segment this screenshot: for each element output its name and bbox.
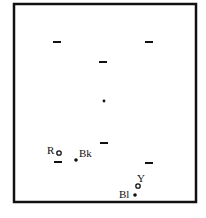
diagram-frame (14, 4, 196, 202)
label-r: R (47, 144, 55, 156)
marker-bl-dot (133, 193, 137, 197)
marker-y-open-circle (136, 184, 140, 188)
marker-bk-dot (74, 158, 78, 162)
dot-center (103, 100, 106, 103)
label-bk: Bk (79, 147, 92, 159)
marker-r-open-circle (57, 151, 61, 155)
diagram-canvas: R Bk Y Bl (0, 0, 206, 218)
label-y: Y (137, 172, 145, 184)
label-bl: Bl (119, 188, 129, 200)
